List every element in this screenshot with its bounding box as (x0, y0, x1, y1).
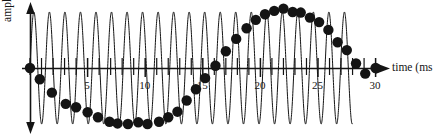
sample-point (123, 119, 133, 129)
x-axis-tick-label: 5 (84, 79, 90, 91)
sample-point (360, 68, 370, 78)
sample-point (181, 95, 191, 105)
waveform-figure: 51015202530 amplitude time (ms (0, 0, 439, 136)
y-axis-label-text: amplitude (1, 0, 13, 22)
sample-point (142, 119, 152, 129)
sample-point (332, 37, 342, 47)
sample-point (25, 63, 35, 73)
x-axis-tick-label: 25 (312, 79, 324, 91)
sample-point (251, 15, 261, 25)
sample-point (323, 25, 333, 35)
sample-point (61, 99, 71, 109)
sample-point (71, 102, 81, 112)
sample-point (47, 87, 57, 97)
x-axis-tick-labels: 51015202530 (84, 79, 381, 91)
sample-point (154, 117, 164, 127)
x-axis-tick-label: 30 (370, 79, 382, 91)
x-axis-label-text: time (ms (392, 61, 433, 73)
sample-point (342, 45, 352, 55)
sample-point (35, 74, 45, 84)
sample-point (305, 12, 315, 22)
sample-point (163, 112, 173, 122)
sample-point (370, 63, 380, 73)
sample-point (82, 107, 92, 117)
sample-point (172, 106, 182, 116)
plot-canvas: 51015202530 (0, 0, 439, 136)
x-axis-tick-label: 10 (139, 79, 151, 91)
sample-point (260, 9, 270, 19)
sample-point (296, 7, 306, 17)
sample-point (93, 112, 103, 122)
sample-point (314, 17, 324, 27)
sample-point (231, 34, 241, 44)
y-axis-label: amplitude (0, 0, 15, 18)
sample-point (221, 46, 231, 56)
x-axis-tick-label: 20 (254, 79, 266, 91)
sample-point (351, 58, 361, 68)
sample-point (269, 6, 279, 16)
x-axis-label: time (ms (392, 59, 439, 75)
sample-point (133, 117, 143, 127)
sample-point (200, 73, 210, 83)
sample-point (112, 118, 122, 128)
sample-point (241, 23, 251, 33)
sample-point (210, 61, 220, 71)
sample-point (191, 84, 201, 94)
sample-point (278, 3, 288, 13)
